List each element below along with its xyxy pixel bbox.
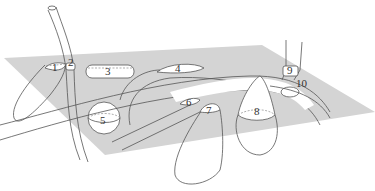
label-1: 1: [52, 61, 58, 73]
diagram-canvas: 1 2 3 4 5 6 7 8 9 10: [0, 0, 375, 191]
label-7: 7: [206, 104, 212, 116]
tube-2-top: [48, 6, 56, 10]
label-3: 3: [105, 65, 111, 77]
label-6: 6: [186, 96, 192, 108]
label-5: 5: [100, 114, 106, 126]
label-8: 8: [254, 105, 260, 117]
label-10: 10: [296, 77, 308, 89]
label-2: 2: [68, 56, 74, 68]
label-4: 4: [175, 62, 181, 74]
diagram-svg: 1 2 3 4 5 6 7 8 9 10: [0, 0, 375, 191]
label-9: 9: [287, 64, 293, 76]
